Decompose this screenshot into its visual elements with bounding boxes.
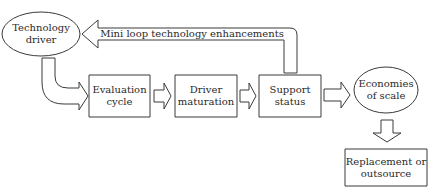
mini-loop-label: Mini loop technology enhancements xyxy=(100,28,284,40)
arrow-support-to-economies xyxy=(324,82,350,108)
arrow-economies-to-replacement xyxy=(373,120,401,142)
evaluation-cycle-label: Evaluation cycle xyxy=(89,75,150,117)
economies-of-scale-label: Economies of scale xyxy=(354,68,418,112)
arrow-maturation-to-support xyxy=(240,83,256,109)
driver-maturation-label: Driver maturation xyxy=(175,75,237,117)
curved-arrow-tech-to-eval xyxy=(42,58,88,110)
replacement-label: Replacement or outsource xyxy=(345,149,427,186)
support-status-label: Support status xyxy=(259,75,321,117)
arrow-eval-to-maturation xyxy=(154,83,171,109)
technology-driver-label: Technology driver xyxy=(4,14,78,54)
